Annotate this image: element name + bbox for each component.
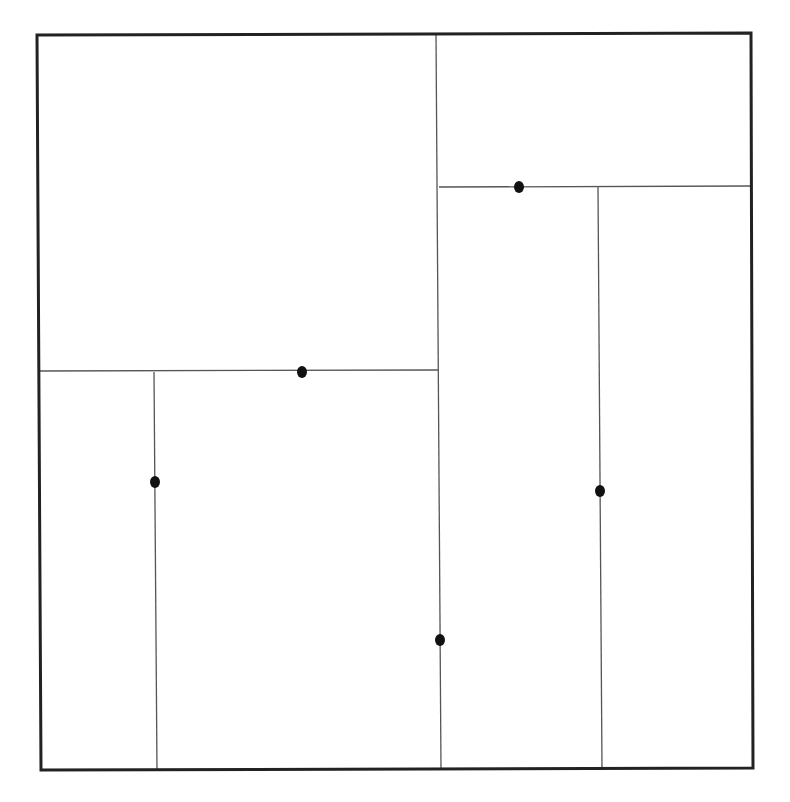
background: [0, 0, 790, 802]
data-point: [297, 366, 307, 378]
data-point: [150, 476, 160, 488]
data-point: [595, 485, 605, 497]
kd-tree-diagram: [0, 0, 790, 802]
data-point: [514, 181, 524, 193]
data-point: [435, 634, 445, 646]
